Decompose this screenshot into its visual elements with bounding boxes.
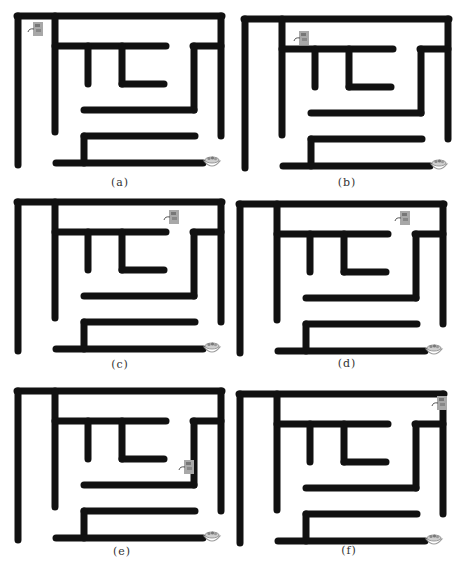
food-bowl-icon — [426, 534, 442, 544]
mouse-icon — [28, 22, 43, 36]
maze-panel-c: (c) — [0, 186, 233, 376]
maze-panel-f: (f) — [222, 378, 455, 568]
food-bowl-icon — [204, 156, 220, 166]
panel-label: (d) — [327, 357, 367, 370]
mouse-icon — [164, 210, 179, 224]
panel-label: (c) — [100, 358, 140, 371]
maze-walls — [0, 186, 233, 376]
food-bowl-icon — [204, 531, 220, 541]
maze-panel-e: (e) — [0, 375, 233, 565]
maze-panel-b: (b) — [227, 3, 460, 193]
mouse-icon — [179, 460, 194, 474]
panel-label: (e) — [102, 545, 142, 558]
mouse-icon — [294, 31, 309, 45]
food-bowl-icon — [431, 159, 447, 169]
food-bowl-icon — [204, 342, 220, 352]
maze-panel-a: (a) — [0, 0, 233, 190]
food-bowl-icon — [426, 344, 442, 354]
maze-walls — [227, 3, 460, 193]
maze-walls — [222, 378, 455, 568]
maze-walls — [222, 188, 455, 378]
panel-label: (f) — [329, 544, 369, 557]
maze-walls — [0, 0, 233, 190]
mouse-icon — [395, 211, 410, 225]
maze-walls — [0, 375, 233, 565]
mouse-icon — [432, 396, 447, 410]
maze-panel-d: (d) — [222, 188, 455, 378]
